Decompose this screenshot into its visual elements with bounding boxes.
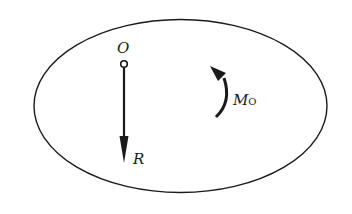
resultant-force-arrow (120, 68, 129, 163)
origin-label: O (117, 41, 129, 56)
moment-label-subscript: O (248, 96, 256, 107)
moment-arc-icon (210, 66, 227, 117)
origin-point (121, 61, 128, 68)
rigid-body-outline (34, 20, 327, 193)
diagram-canvas (0, 0, 352, 214)
resultant-label: R (133, 152, 144, 167)
moment-label-main: M (233, 91, 248, 109)
moment-label: MO (233, 93, 257, 108)
